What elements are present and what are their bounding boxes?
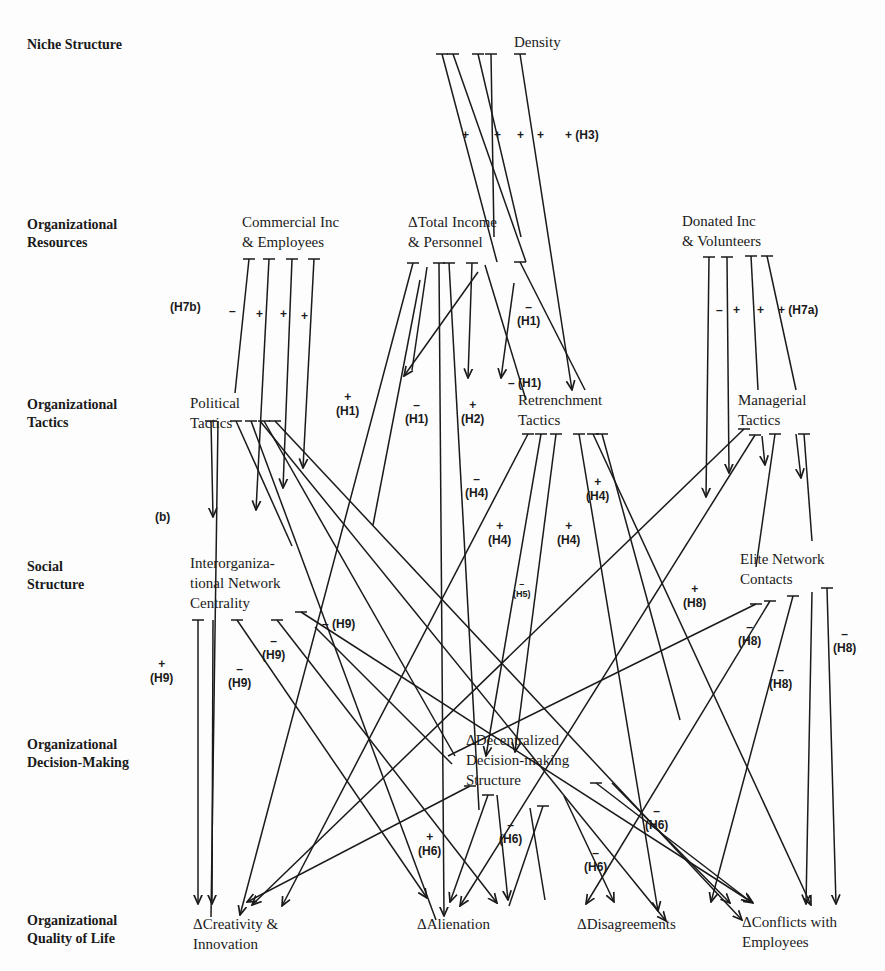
sign-annotation: + (H9) — [150, 657, 173, 685]
path-arrow — [283, 259, 292, 488]
sign-annotation: + (H3) — [565, 128, 599, 142]
sign-annotation: + (H4) — [557, 519, 580, 547]
path-arrow — [501, 283, 514, 378]
sign-annotation: – (H8) — [833, 627, 856, 655]
path-arrow — [252, 429, 744, 905]
sign-annotation: – (H8) — [738, 620, 761, 648]
sign-annotation: + — [537, 128, 544, 142]
sign-annotation: – (H5) — [513, 579, 531, 599]
node-retrenchment: Retrenchment Tactics — [518, 390, 602, 430]
sign-annotation: + (H6) — [418, 830, 441, 858]
node-disagreements: ΔDisagreements — [577, 914, 676, 934]
sign-annotation: – (H1) — [508, 376, 541, 390]
level-label-social: Social Structure — [27, 558, 84, 594]
path-arrow — [767, 256, 796, 390]
level-label-qol: Organizational Quality of Life — [27, 912, 117, 948]
sign-annotation: + (H4) — [586, 475, 609, 503]
path-arrow — [497, 795, 508, 900]
sign-annotation: – (H8) — [769, 663, 792, 691]
path-arrow — [596, 783, 751, 902]
sign-annotation: – (H9) — [262, 634, 285, 662]
node-political: Political Tactics — [190, 393, 240, 433]
sign-annotation: (H7b) — [170, 300, 201, 314]
path-arrow — [235, 259, 249, 393]
sign-annotation: + — [301, 309, 308, 323]
sign-annotation: – (H6) — [645, 804, 668, 832]
path-arrow — [211, 421, 213, 517]
sign-annotation: + — [757, 303, 764, 317]
causal-arrows — [0, 0, 885, 971]
node-interorg: Interorganiza- tional Network Centrality — [190, 553, 280, 613]
sign-annotation: – (H6) — [499, 818, 522, 846]
node-elite: Elite Network Contacts — [740, 549, 825, 589]
sign-annotation: + (H4) — [488, 519, 511, 547]
path-arrow — [796, 434, 801, 478]
path-arrow — [450, 795, 488, 902]
node-density: Density — [514, 32, 561, 52]
sign-annotation: – (H1) — [517, 300, 540, 328]
level-label-niche: Niche Structure — [27, 36, 122, 54]
node-managerial: Managerial Tactics — [738, 390, 806, 430]
path-arrow — [602, 434, 680, 720]
sign-annotation: + (H1) — [336, 390, 359, 418]
sign-annotation: + — [517, 128, 524, 142]
path-arrow — [404, 272, 478, 376]
node-decentralized: ΔDecentralized Decision-making Structure — [466, 730, 569, 790]
sign-annotation: – (H1) — [405, 398, 428, 426]
sign-annotation: – (H6) — [584, 846, 607, 874]
path-arrow — [804, 434, 812, 541]
sign-annotation: + (H7a) — [778, 303, 818, 317]
sign-annotation: + — [733, 303, 740, 317]
path-arrow — [491, 54, 494, 237]
path-arrow — [756, 434, 775, 567]
path-arrow — [727, 257, 729, 473]
path-arrow — [256, 259, 269, 510]
path-arrow — [706, 257, 709, 497]
path-arrow — [264, 421, 455, 756]
path-arrow — [762, 436, 765, 465]
tee-marks — [192, 54, 833, 806]
path-arrow — [439, 263, 444, 916]
sign-annotation: (b) — [155, 510, 170, 524]
sign-annotation: – (H9) — [322, 617, 355, 631]
path-arrow — [751, 256, 758, 390]
path-arrow — [612, 783, 730, 903]
path-arrow — [303, 259, 314, 468]
node-donated: Donated Inc & Volunteers — [682, 211, 761, 251]
path-diagram: Niche StructureOrganizational ResourcesO… — [0, 0, 885, 971]
sign-annotation: + — [280, 307, 287, 321]
node-total_income: ΔTotal Income & Personnel — [408, 212, 497, 252]
sign-annotation: + (H8) — [683, 582, 706, 610]
sign-annotation: – (H4) — [465, 472, 488, 500]
level-label-resources: Organizational Resources — [27, 216, 117, 252]
path-arrow — [212, 620, 213, 904]
sign-annotation: + (H2) — [461, 398, 484, 426]
sign-annotation: – (H9) — [228, 662, 251, 690]
path-arrow — [251, 421, 436, 920]
sign-annotation: + — [256, 307, 263, 321]
sign-annotation: + — [494, 128, 501, 142]
path-arrow — [806, 592, 812, 904]
sign-annotation: – — [229, 304, 236, 318]
sign-annotation: + — [462, 128, 469, 142]
node-commercial: Commercial Inc & Employees — [242, 212, 339, 252]
level-label-tactics: Organizational Tactics — [27, 396, 117, 432]
node-alienation: ΔAlienation — [417, 914, 490, 934]
sign-annotation: – — [716, 303, 723, 317]
node-conflicts: ΔConflicts with Employees — [742, 912, 837, 952]
node-creativity: ΔCreativity & Innovation — [193, 914, 278, 954]
level-label-decision: Organizational Decision-Making — [27, 736, 129, 772]
edge-group — [198, 54, 836, 921]
path-arrow — [520, 54, 572, 390]
